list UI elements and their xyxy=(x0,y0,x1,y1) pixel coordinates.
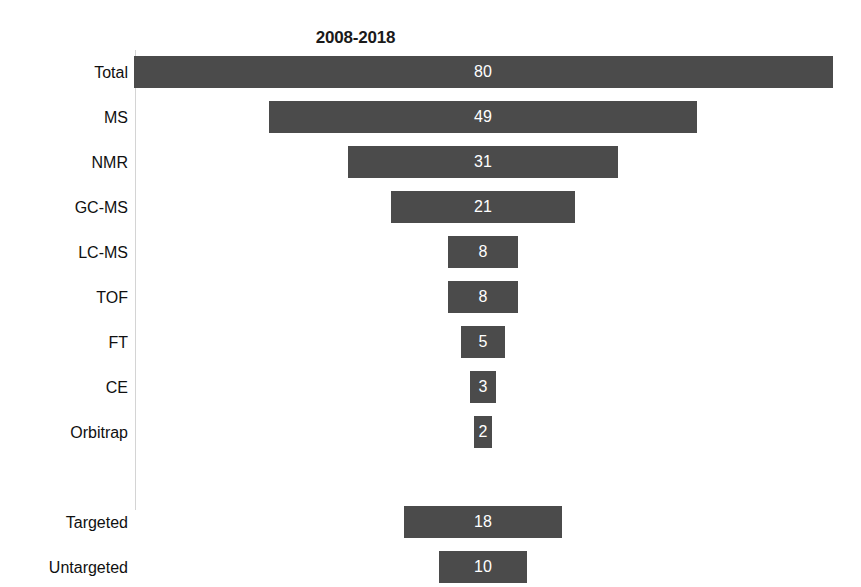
bar-track: 8 xyxy=(135,230,861,275)
funnel-bar[interactable] xyxy=(269,101,697,133)
category-label xyxy=(0,455,128,500)
bar-track: 3 xyxy=(135,365,861,410)
funnel-bar[interactable] xyxy=(461,326,505,358)
chart-row: Targeted18 xyxy=(0,500,861,545)
funnel-bar[interactable] xyxy=(474,416,492,448)
funnel-bar[interactable] xyxy=(448,281,518,313)
category-label: CE xyxy=(0,365,128,410)
chart-row: FT5 xyxy=(0,320,861,365)
bar-track: 10 xyxy=(135,545,861,587)
chart-row: MS49 xyxy=(0,95,861,140)
category-label: NMR xyxy=(0,140,128,185)
chart-rows: Total80MS49NMR31GC-MS21LC-MS8TOF8FT5CE3O… xyxy=(0,50,861,587)
bar-track: 5 xyxy=(135,320,861,365)
category-label: TOF xyxy=(0,275,128,320)
chart-row: Untargeted10 xyxy=(0,545,861,587)
funnel-bar[interactable] xyxy=(391,191,574,223)
category-label: Total xyxy=(0,50,128,95)
chart-row: Orbitrap2 xyxy=(0,410,861,455)
category-label: Orbitrap xyxy=(0,410,128,455)
bar-track: 80 xyxy=(135,50,861,95)
chart-row: Total80 xyxy=(0,50,861,95)
chart-row: TOF8 xyxy=(0,275,861,320)
category-label: Targeted xyxy=(0,500,128,545)
category-label: FT xyxy=(0,320,128,365)
funnel-bar[interactable] xyxy=(348,146,619,178)
chart-title: 2008-2018 xyxy=(0,28,786,48)
funnel-bar[interactable] xyxy=(470,371,496,403)
funnel-bar[interactable] xyxy=(448,236,518,268)
category-label: GC-MS xyxy=(0,185,128,230)
bar-track: 49 xyxy=(135,95,861,140)
bar-track: 8 xyxy=(135,275,861,320)
chart-row: GC-MS21 xyxy=(0,185,861,230)
chart-row: LC-MS8 xyxy=(0,230,861,275)
bar-track: 31 xyxy=(135,140,861,185)
bar-track: 2 xyxy=(135,410,861,455)
bar-track xyxy=(135,455,861,500)
chart-row-spacer xyxy=(0,455,861,500)
funnel-bar[interactable] xyxy=(439,551,526,583)
funnel-bar[interactable] xyxy=(404,506,561,538)
category-label: MS xyxy=(0,95,128,140)
funnel-bar[interactable] xyxy=(134,56,833,88)
bar-track: 18 xyxy=(135,500,861,545)
bar-track: 21 xyxy=(135,185,861,230)
category-label: Untargeted xyxy=(0,545,128,587)
chart-row: CE3 xyxy=(0,365,861,410)
category-label: LC-MS xyxy=(0,230,128,275)
chart-row: NMR31 xyxy=(0,140,861,185)
